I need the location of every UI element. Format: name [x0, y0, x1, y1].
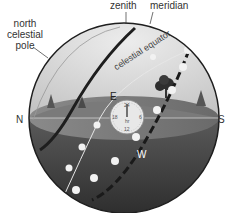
ncp-line-2: celestial [6, 29, 44, 40]
label-south: S [218, 114, 225, 125]
label-meridian: meridian [150, 0, 188, 11]
dial-label-right: 6 [139, 115, 142, 120]
dial-label-top: 24 [124, 103, 130, 108]
ncp-line-3: pole [6, 40, 44, 51]
ncp-line-1: north [6, 18, 44, 29]
dial-label-left: 18 [112, 115, 118, 120]
dial-label-center: hr [125, 119, 129, 124]
meridian-leader [150, 12, 153, 24]
celestial-sphere-diagram: north celestial pole zenith meridian N S… [0, 0, 232, 213]
label-zenith: zenith [110, 0, 137, 11]
label-north-celestial-pole: north celestial pole [6, 18, 44, 51]
label-east: E [110, 91, 117, 102]
dial-label-bottom: 12 [124, 127, 130, 132]
label-north: N [16, 114, 23, 125]
label-west: W [137, 149, 146, 160]
